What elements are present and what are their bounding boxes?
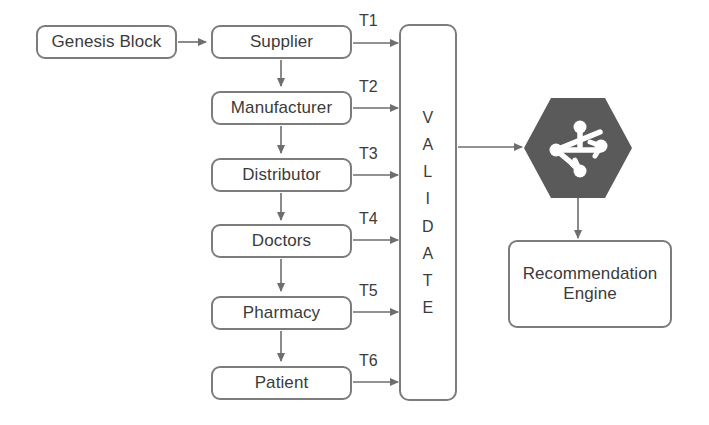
label-t6: T6 <box>359 352 378 370</box>
recommendation-engine-line1: Recommendation <box>523 264 658 284</box>
node-genesis-block-label: Genesis Block <box>52 32 162 52</box>
node-manufacturer-label: Manufacturer <box>231 98 332 118</box>
label-t2: T2 <box>359 78 378 96</box>
label-t3: T3 <box>359 145 378 163</box>
node-validate[interactable]: V A L I D A T E <box>399 24 457 401</box>
recommendation-engine-line2: Engine <box>563 284 617 304</box>
validate-letter-5: A <box>422 240 433 267</box>
node-patient-label: Patient <box>255 373 309 393</box>
share-network-icon <box>522 94 634 202</box>
node-manufacturer[interactable]: Manufacturer <box>211 91 352 125</box>
node-patient[interactable]: Patient <box>211 366 352 400</box>
validate-letter-1: A <box>422 131 433 158</box>
node-pharmacy[interactable]: Pharmacy <box>211 296 352 330</box>
diagram-canvas: Genesis Block Supplier Manufacturer Dist… <box>0 0 709 425</box>
label-t4: T4 <box>359 210 378 228</box>
validate-letter-2: L <box>423 158 432 185</box>
node-genesis-block[interactable]: Genesis Block <box>36 25 177 59</box>
validate-letter-4: D <box>422 213 434 240</box>
validate-letter-6: T <box>423 267 433 294</box>
label-t5: T5 <box>359 282 378 300</box>
node-distributor[interactable]: Distributor <box>211 158 352 192</box>
validate-label-stack: V A L I D A T E <box>422 104 434 322</box>
node-pharmacy-label: Pharmacy <box>243 303 320 323</box>
validate-letter-7: E <box>422 294 433 321</box>
label-t1: T1 <box>359 12 378 30</box>
diagram-edges <box>0 0 709 425</box>
validate-letter-3: I <box>426 185 431 212</box>
node-doctors-label: Doctors <box>252 231 311 251</box>
node-doctors[interactable]: Doctors <box>211 224 352 258</box>
node-supplier[interactable]: Supplier <box>211 25 352 59</box>
node-supplier-label: Supplier <box>250 32 313 52</box>
validate-letter-0: V <box>422 104 433 131</box>
node-recommendation-engine[interactable]: Recommendation Engine <box>508 240 672 328</box>
node-hexagon[interactable] <box>522 94 634 202</box>
node-distributor-label: Distributor <box>242 165 321 185</box>
